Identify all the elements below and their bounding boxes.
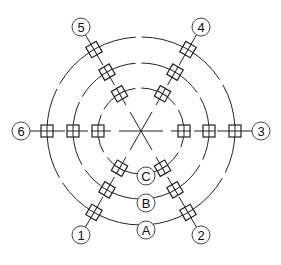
node-6-b <box>67 125 79 137</box>
svg-text:2: 2 <box>197 228 204 243</box>
axis-label-6: 6 <box>12 122 30 140</box>
axis-label-1: 1 <box>72 226 90 244</box>
node-4-b <box>167 64 183 80</box>
axis-label-5: 5 <box>72 18 90 36</box>
node-4-c <box>154 86 170 102</box>
radial-grid-diagram: 123456CBA <box>0 0 281 265</box>
axis-label-4: 4 <box>192 18 210 36</box>
node-3-a <box>229 125 241 137</box>
node-2-b <box>167 182 183 198</box>
node-2-c <box>154 160 170 176</box>
axis-6 <box>30 125 141 137</box>
axis-3 <box>141 125 252 137</box>
axis-4 <box>141 35 197 131</box>
svg-text:5: 5 <box>77 20 84 35</box>
ring-label-a: A <box>137 221 155 239</box>
svg-text:A: A <box>142 223 151 238</box>
node-2-a <box>180 204 196 220</box>
axis-label-2: 2 <box>192 226 210 244</box>
node-5-a <box>86 41 102 57</box>
node-1-c <box>111 160 127 176</box>
node-1-b <box>99 182 115 198</box>
axis-1 <box>86 131 142 227</box>
ring-label-b: B <box>137 194 155 212</box>
svg-text:3: 3 <box>257 124 264 139</box>
axis-label-3: 3 <box>252 122 270 140</box>
node-6-c <box>92 125 104 137</box>
axis-5 <box>86 35 142 131</box>
node-1-a <box>86 204 102 220</box>
node-5-c <box>111 86 127 102</box>
svg-text:B: B <box>142 196 151 211</box>
node-5-b <box>99 64 115 80</box>
diagram-svg: 123456CBA <box>0 0 281 265</box>
ring-label-c: C <box>137 167 155 185</box>
node-4-a <box>180 41 196 57</box>
svg-text:6: 6 <box>17 124 24 139</box>
svg-text:1: 1 <box>77 228 84 243</box>
node-3-b <box>203 125 215 137</box>
svg-text:4: 4 <box>197 20 204 35</box>
svg-text:C: C <box>141 169 150 184</box>
node-6-a <box>41 125 53 137</box>
node-3-c <box>178 125 190 137</box>
